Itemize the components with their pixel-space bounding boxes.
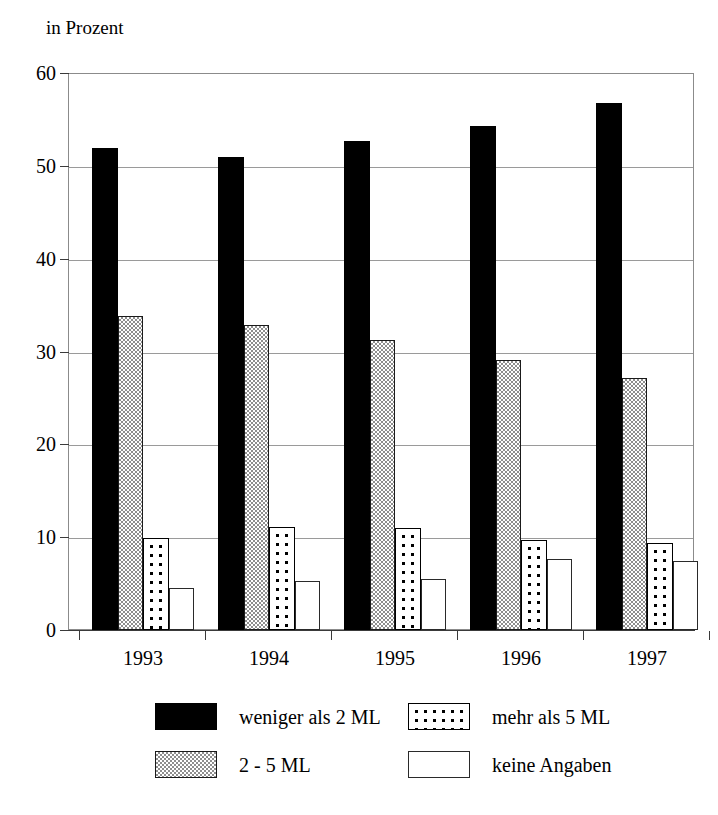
legend-swatch-icon xyxy=(155,751,217,778)
bar xyxy=(143,538,169,630)
y-axis-tick-label: 0 xyxy=(10,620,56,640)
y-axis-tick xyxy=(60,259,69,260)
x-axis-category-label: 1993 xyxy=(123,648,163,668)
y-axis-tick xyxy=(60,444,69,445)
legend-item-label: keine Angaben xyxy=(492,755,611,775)
x-axis-line xyxy=(68,630,695,631)
bar xyxy=(344,141,370,630)
y-axis-labels: 0102030405060 xyxy=(0,0,56,815)
x-axis-tick xyxy=(331,631,332,640)
bar xyxy=(647,543,673,630)
y-axis-tick-label: 20 xyxy=(10,434,56,454)
x-axis-tick xyxy=(457,631,458,640)
y-axis-tick-label: 60 xyxy=(10,63,56,83)
y-axis-tick xyxy=(60,73,69,74)
x-axis-tick xyxy=(205,631,206,640)
legend-item-label: mehr als 5 ML xyxy=(492,707,610,727)
y-axis-tick xyxy=(60,352,69,353)
bar xyxy=(521,540,547,630)
bar xyxy=(421,579,447,630)
y-axis-tick xyxy=(60,166,69,167)
y-axis-tick xyxy=(60,630,69,631)
x-axis-category-label: 1994 xyxy=(249,648,289,668)
x-axis-category-label: 1997 xyxy=(627,648,667,668)
legend-item-label: 2 - 5 ML xyxy=(239,755,311,775)
bar xyxy=(218,157,244,630)
x-axis-category-label: 1995 xyxy=(375,648,415,668)
unit-caption: in Prozent xyxy=(46,18,124,37)
legend-swatch-icon xyxy=(155,703,217,730)
y-axis-tick-label: 30 xyxy=(10,342,56,362)
bar xyxy=(596,103,622,630)
bar xyxy=(118,316,144,630)
bar xyxy=(244,325,270,630)
bar xyxy=(547,559,573,630)
bar xyxy=(295,581,321,630)
legend-item-keine-angaben: keine Angaben xyxy=(408,751,611,778)
legend-swatch-icon xyxy=(408,703,470,730)
bar xyxy=(470,126,496,630)
x-axis-tick xyxy=(79,631,80,640)
y-axis-tick-label: 40 xyxy=(10,249,56,269)
bar xyxy=(673,561,699,630)
legend-item-label: weniger als 2 ML xyxy=(239,707,381,727)
bar xyxy=(496,360,522,630)
x-axis-category-label: 1996 xyxy=(501,648,541,668)
bar-groups xyxy=(68,73,694,630)
legend-item-mehr-als-5-ml: mehr als 5 ML xyxy=(408,703,610,730)
bar xyxy=(395,528,421,630)
y-axis-tick-label: 10 xyxy=(10,527,56,547)
y-axis-tick xyxy=(60,537,69,538)
bar xyxy=(370,340,396,630)
bar xyxy=(92,148,118,630)
bar xyxy=(622,378,648,630)
bar xyxy=(169,588,195,630)
legend-swatch-icon xyxy=(408,751,470,778)
x-axis-tick xyxy=(583,631,584,640)
legend-item-weniger-als-2-ml: weniger als 2 ML xyxy=(155,703,381,730)
chart-legend: weniger als 2 ML mehr als 5 ML 2 - 5 ML … xyxy=(155,703,695,803)
legend-item-2-5-ml: 2 - 5 ML xyxy=(155,751,311,778)
bar xyxy=(269,527,295,630)
y-axis-tick-label: 50 xyxy=(10,156,56,176)
x-axis-tick xyxy=(709,631,710,640)
